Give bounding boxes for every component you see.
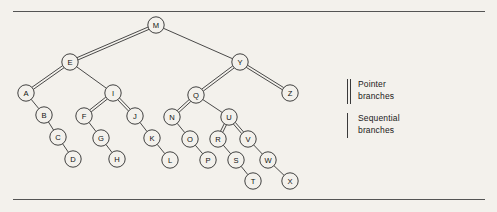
tree-node-r: R	[210, 131, 226, 147]
tree-node-a: A	[18, 85, 34, 101]
node-layer: MEYAIQZBFJNUCGKORVDHLPSWTX	[18, 17, 298, 189]
tree-node-w: W	[260, 152, 276, 168]
edge-j-k-sequential	[140, 122, 147, 131]
tree-graph: MEYAIQZBFJNUCGKORVDHLPSWTX	[0, 0, 497, 212]
node-label: Z	[288, 89, 293, 98]
tree-node-t: T	[245, 173, 261, 189]
edge-v-w-sequential	[254, 145, 263, 154]
node-label: J	[133, 112, 137, 121]
node-label: C	[55, 133, 61, 142]
node-label: H	[114, 155, 119, 164]
node-label: F	[82, 112, 87, 121]
tree-node-b: B	[36, 107, 52, 123]
node-label: G	[98, 134, 104, 143]
node-label: D	[70, 155, 76, 164]
tree-node-q: Q	[188, 87, 204, 103]
edge-b-c-sequential	[48, 122, 53, 130]
node-label: M	[153, 21, 159, 30]
tree-node-p: P	[200, 152, 216, 168]
node-label: R	[215, 135, 221, 144]
node-label: X	[287, 177, 292, 186]
edge-r-s-sequential	[223, 145, 230, 154]
tree-node-f: F	[76, 108, 92, 124]
tree-node-x: X	[282, 173, 298, 189]
single-line-icon	[347, 113, 352, 138]
tree-node-z: Z	[282, 85, 298, 101]
edge-k-l-sequential	[157, 144, 165, 153]
edge-i-j-pointer	[118, 98, 130, 111]
edge-m-e-pointer	[77, 27, 149, 60]
legend-sequential-line1: Sequential	[358, 113, 400, 125]
edge-q-n-pointer	[177, 100, 191, 113]
node-label: O	[187, 135, 193, 144]
edge-c-d-sequential	[63, 144, 69, 152]
legend-pointer-line2: branches	[358, 91, 394, 103]
edge-e-i-sequential	[77, 67, 107, 88]
node-label: K	[149, 134, 154, 143]
edge-y-q-pointer	[202, 66, 234, 91]
node-label: L	[168, 156, 172, 165]
edge-i-f-pointer	[90, 97, 108, 112]
tree-node-i: I	[105, 85, 121, 101]
edge-o-p-sequential	[195, 145, 202, 154]
tree-node-d: D	[65, 151, 81, 167]
node-label: U	[226, 113, 231, 122]
edge-u-v-pointer	[233, 122, 243, 133]
figure-tree-diagram: MEYAIQZBFJNUCGKORVDHLPSWTX Pointer branc…	[0, 0, 497, 212]
edge-e-a-pointer	[32, 66, 64, 90]
tree-node-j: J	[127, 108, 143, 124]
legend-pointer-line1: Pointer	[358, 79, 394, 91]
tree-node-h: H	[109, 151, 125, 167]
edge-y-z-pointer	[246, 65, 283, 89]
node-label: B	[41, 111, 46, 120]
tree-node-v: V	[240, 131, 256, 147]
legend-item-pointer-branches: Pointer branches	[347, 79, 394, 104]
node-label: E	[67, 58, 72, 67]
node-label: N	[169, 113, 174, 122]
legend-item-sequential-branches: Sequential branches	[347, 113, 400, 138]
tree-node-l: L	[162, 152, 178, 168]
tree-node-e: E	[62, 54, 78, 70]
node-label: T	[251, 177, 256, 186]
tree-node-s: S	[228, 152, 244, 168]
edge-g-h-sequential	[106, 145, 112, 153]
node-label: S	[233, 156, 238, 165]
edge-w-x-sequential	[274, 166, 284, 176]
legend-sequential-text: Sequential branches	[358, 113, 400, 136]
edge-a-b-sequential	[31, 99, 39, 108]
edge-u-r-pointer	[221, 124, 227, 132]
tree-node-n: N	[164, 109, 180, 125]
tree-node-m: M	[148, 17, 164, 33]
edge-f-g-sequential	[89, 122, 96, 131]
tree-node-g: G	[93, 130, 109, 146]
edge-n-o-sequential	[177, 123, 185, 132]
tree-node-u: U	[221, 109, 237, 125]
node-label: Q	[193, 91, 199, 100]
edge-m-y-sequential	[164, 28, 233, 58]
tree-node-o: O	[182, 131, 198, 147]
double-line-icon	[347, 79, 352, 104]
legend-pointer-text: Pointer branches	[358, 79, 394, 102]
tree-node-k: K	[144, 130, 160, 146]
edge-q-u-sequential	[203, 100, 222, 113]
tree-node-c: C	[50, 129, 66, 145]
node-label: P	[205, 156, 210, 165]
node-label: Y	[237, 58, 242, 67]
node-label: W	[264, 156, 272, 165]
edge-s-t-sequential	[241, 166, 248, 174]
tree-node-y: Y	[232, 54, 248, 70]
node-label: I	[112, 89, 114, 98]
legend-sequential-line2: branches	[358, 125, 400, 137]
